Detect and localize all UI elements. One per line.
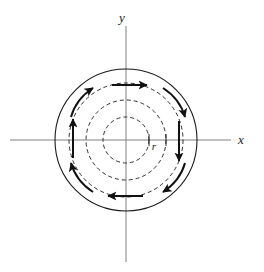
axes-group: y x: [10, 10, 244, 262]
radius-marker-group: r: [149, 134, 166, 152]
y-axis-label: y: [117, 10, 125, 25]
figure-canvas: y x r: [0, 0, 264, 272]
arrow-lower-left-curved: [71, 163, 93, 192]
arrow-upper-right-curved: [163, 88, 185, 117]
arrow-upper-left-curved: [71, 88, 93, 117]
vector-field-diagram: y x r: [0, 0, 264, 272]
radius-label: r: [152, 140, 157, 152]
arrow-lower-right-curved: [163, 163, 185, 192]
x-axis-label: x: [237, 132, 244, 147]
